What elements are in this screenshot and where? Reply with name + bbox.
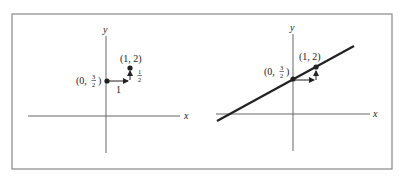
point-a-den: 2	[92, 81, 95, 88]
point-a	[290, 76, 295, 81]
point-b	[313, 64, 318, 69]
point-b-label: (1, 2)	[299, 51, 321, 63]
point-b-label: (1, 2)	[120, 53, 142, 65]
point-a-num: 3	[92, 73, 95, 80]
x-axis-label: x	[183, 110, 189, 121]
y-axis-label: y	[102, 24, 108, 35]
point-a-label-suffix: )	[286, 66, 289, 78]
point-a-label-suffix: )	[98, 75, 101, 87]
point-b	[127, 65, 132, 70]
rise-den: 2	[138, 76, 141, 83]
point-a-label-prefix: (0,	[76, 75, 87, 87]
rise-num: 1	[138, 68, 141, 75]
figure-frame	[12, 14, 392, 169]
point-a-num: 3	[280, 64, 283, 71]
graph-line	[217, 46, 354, 121]
right-panel: x y (1, 2) (0, 3 2 )	[216, 22, 378, 151]
point-a	[104, 78, 109, 83]
point-a-den: 2	[280, 72, 283, 79]
run-label: 1	[116, 84, 121, 95]
point-a-label-prefix: (0,	[264, 66, 275, 78]
figure: x y (1, 2) (0, 3 2 ) 1 1 2 x y (1, 2) (0…	[0, 0, 403, 182]
y-axis-label: y	[289, 22, 295, 33]
left-panel: x y (1, 2) (0, 3 2 ) 1 1 2	[28, 24, 189, 153]
x-axis-label: x	[372, 108, 378, 119]
